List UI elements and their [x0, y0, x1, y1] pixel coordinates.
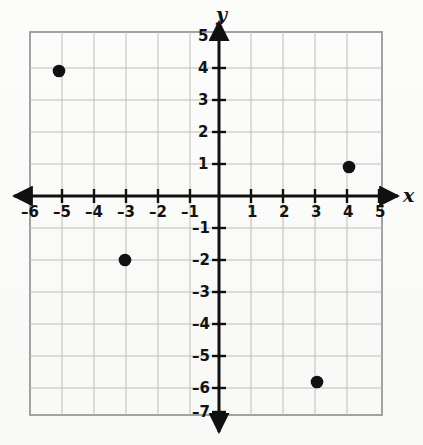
y-tick-label--3: –3 — [192, 285, 210, 300]
y-tick-label-5: 5 — [198, 29, 208, 44]
x-tick-label--4: –4 — [85, 205, 103, 220]
x-tick-label--5: –5 — [53, 205, 71, 220]
x-tick-label--2: –2 — [149, 205, 167, 220]
data-point[interactable] — [53, 65, 66, 78]
x-tick-label-5: 5 — [375, 205, 385, 220]
y-tick-label--6: –6 — [192, 381, 210, 396]
y-tick-label--1: –1 — [192, 221, 210, 236]
x-tick-label-4: 4 — [343, 205, 353, 220]
data-point[interactable] — [119, 254, 132, 267]
x-tick-label-3: 3 — [311, 205, 321, 220]
y-tick-label--5: –5 — [192, 349, 210, 364]
x-tick-label-2: 2 — [279, 205, 289, 220]
y-tick-label-2: 2 — [198, 125, 208, 140]
x-tick-label--6: –6 — [21, 205, 39, 220]
coordinate-plane-figure: –6 –5 –4 –3 –2 –1 1 2 3 4 5 5 4 3 2 1 –1… — [0, 0, 423, 445]
coordinate-plane-svg — [0, 0, 423, 445]
x-axis-label: x — [403, 186, 414, 205]
x-tick-label--3: –3 — [117, 205, 135, 220]
y-axis-label: y — [216, 5, 227, 24]
y-tick-label-1: 1 — [198, 157, 208, 172]
y-tick-label--4: –4 — [192, 317, 210, 332]
x-tick-label--1: –1 — [181, 205, 199, 220]
y-tick-label-4: 4 — [198, 61, 208, 76]
data-point[interactable] — [311, 376, 324, 389]
x-tick-label-1: 1 — [247, 205, 257, 220]
data-point[interactable] — [343, 161, 356, 174]
y-tick-label-3: 3 — [198, 93, 208, 108]
y-tick-label--7: –7 — [192, 405, 210, 420]
y-tick-label--2: –2 — [192, 253, 210, 268]
